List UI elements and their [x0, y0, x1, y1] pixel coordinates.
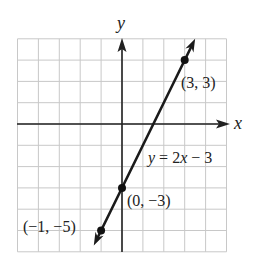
line-graph: y x (3, 3) (0, −3) (−1, −5) y = 2x − 3 [0, 0, 261, 271]
point-label-neg1-neg5: (−1, −5) [23, 218, 76, 236]
point-label-0-neg3: (0, −3) [127, 192, 171, 210]
function-line [94, 39, 195, 246]
point-0-neg3 [118, 184, 126, 192]
equation-label: y = 2x − 3 [146, 149, 212, 167]
x-axis [17, 120, 230, 129]
point-neg1-neg5 [97, 227, 105, 235]
x-axis-label: x [233, 113, 242, 133]
point-3-3 [181, 56, 189, 64]
y-axis-label: y [115, 13, 125, 33]
point-label-3-3: (3, 3) [181, 74, 216, 92]
